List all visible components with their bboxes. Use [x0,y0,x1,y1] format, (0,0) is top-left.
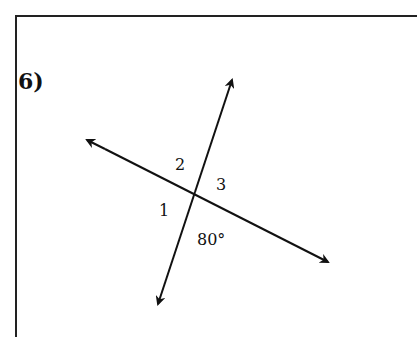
angle-1-label: 1 [159,201,169,220]
angle-2-label: 2 [175,155,185,174]
given-angle-label: 80° [197,230,225,249]
angle-3-label: 3 [216,175,226,194]
